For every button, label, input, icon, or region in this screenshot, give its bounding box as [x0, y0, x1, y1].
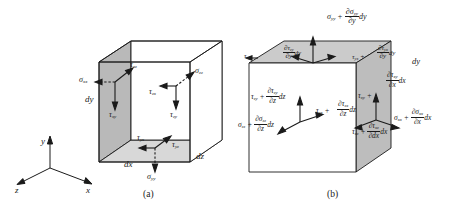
label-tau-zx: τzx	[149, 88, 156, 97]
axis-z-line	[22, 168, 50, 182]
label-tau-yx-inc: τyx +	[352, 54, 365, 61]
label-tau-xy-inc: ∂τxy ∂x dx	[386, 71, 406, 88]
label-tau-yz: τyz	[172, 141, 179, 150]
label-tau-zy-inc-y: ∂τzy ∂y dy	[283, 45, 301, 60]
label-sigma-yy: σyy	[147, 173, 155, 182]
label-sigma-xx: σxx	[79, 76, 87, 85]
label-sigma-xx-inc: σxx + ∂σxx ∂x dx	[394, 108, 431, 125]
arrow-sigma-xx-head	[95, 79, 102, 84]
plus-sign: +	[360, 53, 365, 61]
label-sigma-yy-inc: σyy + ∂σyy ∂y dy	[327, 8, 367, 25]
label-dz-panel-a: dz	[196, 152, 204, 161]
axis-label-z: z	[15, 186, 19, 195]
label-tau-zx-inc: ∂τzx ∂z dz	[337, 100, 356, 117]
axis-label-x: x	[86, 186, 90, 195]
plus-sign: +	[259, 92, 264, 101]
plus-sign: +	[324, 106, 329, 115]
label-tau-zy-inc-z: τzy + ∂τzy ∂z dz	[251, 87, 285, 104]
caption-panel-a: (a)	[143, 189, 154, 199]
axis-label-y: y	[41, 137, 45, 146]
axis-y-arrowhead	[47, 136, 52, 144]
arrow-sigma-xx-inc-head	[391, 125, 399, 130]
label-tau-xz: τxz	[130, 61, 137, 70]
plus-sign: +	[247, 120, 252, 129]
axis-z-arrowhead	[17, 179, 25, 185]
label-sigma-zz-inc: σzz + ∂σzz ∂z dz	[238, 115, 274, 132]
label-tau-xy: τxy	[109, 111, 116, 120]
plus-sign: +	[404, 113, 409, 122]
stress-cube-figure: σxx τxz τxy σzz τzx τzy τyx τyz σyy dy d…	[0, 0, 469, 217]
label-tau-zy: τzy	[170, 111, 177, 120]
label-dy-panel-a: dy	[85, 95, 94, 104]
label-dy-panel-b: dy	[412, 57, 420, 66]
label-dx-panel-a: dx	[124, 160, 133, 169]
label-tau-zx-corner: τzx +	[316, 107, 330, 115]
axis-x-line	[50, 168, 87, 182]
label-sigma-zz: σzz	[195, 67, 203, 76]
arrow-sigma-yy-inc-head	[310, 37, 315, 45]
plus-sign: +	[337, 12, 342, 21]
label-tau-zy-corner: τzy	[244, 53, 250, 60]
label-tau-xy-corner: τxy +	[358, 92, 372, 100]
axis-x-arrowhead	[84, 178, 92, 184]
arrow-sigma-yy-head	[152, 164, 157, 172]
plus-sign: +	[360, 127, 365, 136]
label-tau-yx: τyx	[137, 134, 144, 143]
caption-panel-b: (b)	[327, 189, 338, 199]
label-tau-yx-inc-frac: ∂τyx ∂y dy	[377, 45, 395, 60]
plus-sign: +	[367, 91, 372, 100]
coordinate-axes	[17, 136, 92, 185]
label-tau-xz-inc: τxz + ∂τxz ∂dx dx	[352, 122, 387, 139]
